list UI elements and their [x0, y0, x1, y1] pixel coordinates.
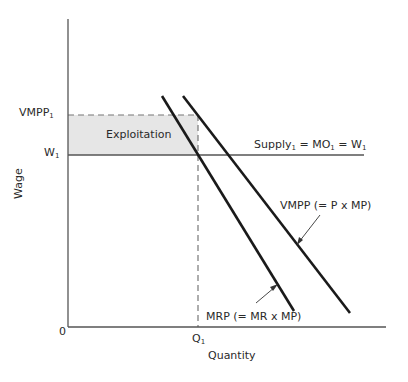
- vmpp-label: VMPP (= P x MP): [280, 199, 371, 212]
- x-tick-q1-text: Q: [192, 332, 201, 345]
- x-tick-q1: Q1: [192, 332, 205, 346]
- w-label-sub: 1: [362, 144, 366, 152]
- x-tick-q1-sub: 1: [201, 338, 205, 346]
- y-tick-vmpp1-sub: 1: [49, 112, 53, 120]
- x-axis-title: Quantity: [208, 349, 256, 362]
- y-tick-vmpp1-text: VMPP: [19, 106, 49, 119]
- supply-label: Supply1 = MO1 = W1: [254, 138, 366, 152]
- mrp-curve: [162, 96, 294, 311]
- exploitation-label: Exploitation: [106, 128, 171, 141]
- y-tick-w1: W1: [44, 146, 59, 160]
- mo-label-text: = MO: [296, 138, 330, 151]
- y-tick-vmpp1: VMPP1: [19, 106, 54, 120]
- y-tick-w1-sub: 1: [55, 152, 59, 160]
- y-tick-w1-text: W: [44, 146, 55, 159]
- w-label-text: = W: [335, 138, 362, 151]
- supply-label-text: Supply: [254, 138, 292, 151]
- y-axis-title: Wage: [12, 168, 25, 199]
- origin-label: 0: [59, 325, 66, 338]
- mrp-label: MRP (= MR x MP): [206, 310, 301, 323]
- vmpp-arrow: [299, 215, 320, 242]
